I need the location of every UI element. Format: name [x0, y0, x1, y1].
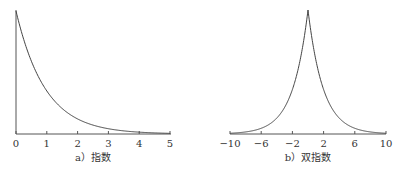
chart-double-exponential: −10−6−22610 b）双指数: [219, 10, 392, 163]
x-tick-label: −6: [254, 138, 269, 149]
x-tick-label: 10: [380, 138, 393, 149]
x-tick-label: 2: [74, 138, 80, 149]
x-tick-label: 4: [136, 138, 142, 149]
x-tick-label: 2: [320, 138, 326, 149]
chart-exponential: 012345 a）指数: [13, 10, 173, 163]
exponential-curve: [16, 11, 170, 133]
x-tick-label: 3: [105, 138, 111, 149]
x-tick-label: −2: [285, 138, 300, 149]
caption-b: b）双指数: [285, 151, 331, 163]
x-tick-label: −10: [219, 138, 240, 149]
caption-a: a）指数: [75, 151, 111, 163]
x-tick-label: 6: [352, 138, 358, 149]
x-tick-label: 1: [44, 138, 50, 149]
laplace-curve: [230, 10, 386, 133]
figure: 012345 a）指数 −10−6−22610 b）双指数: [0, 0, 398, 176]
x-tick-label: 5: [167, 138, 173, 149]
x-tick-label: 0: [13, 138, 19, 149]
